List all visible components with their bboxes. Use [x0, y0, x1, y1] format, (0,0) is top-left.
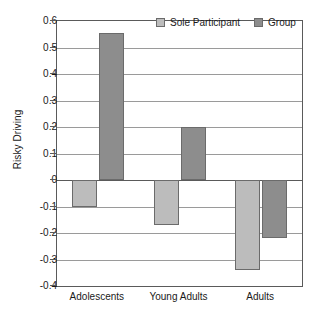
gridline — [57, 48, 302, 49]
gridline — [57, 127, 302, 128]
y-tick-mark — [50, 100, 56, 101]
legend-swatch-sole-participant — [156, 18, 165, 27]
bar — [72, 180, 97, 207]
bar — [235, 180, 260, 270]
y-tick-mark — [50, 73, 56, 74]
y-tick-mark — [50, 206, 56, 207]
plot-inner — [57, 21, 302, 286]
gridline — [57, 154, 302, 155]
y-tick-mark — [50, 126, 56, 127]
legend-swatch-group — [254, 18, 263, 27]
legend-item-sole-participant: Sole Participant — [156, 17, 240, 28]
y-tick-mark — [50, 47, 56, 48]
x-tick-label: Young Adults — [149, 291, 207, 302]
plot-area — [56, 20, 303, 287]
bar — [181, 127, 206, 180]
bar — [99, 33, 124, 180]
legend-label-sole-participant: Sole Participant — [170, 17, 240, 28]
bar — [262, 180, 287, 238]
y-tick-mark — [50, 285, 56, 286]
gridline — [57, 260, 302, 261]
chart-legend: Sole Participant Group — [152, 13, 300, 31]
legend-label-group: Group — [268, 17, 296, 28]
y-tick-mark — [50, 20, 56, 21]
gridline — [57, 101, 302, 102]
y-tick-mark — [50, 179, 56, 180]
y-tick-mark — [50, 232, 56, 233]
x-tick-label: Adolescents — [70, 291, 124, 302]
y-tick-mark — [50, 259, 56, 260]
legend-item-group: Group — [254, 17, 296, 28]
bar — [154, 180, 179, 225]
risky-driving-bar-chart: Risky Driving 0.60.50.40.30.20.10-0.1-0.… — [0, 0, 320, 314]
gridline — [57, 74, 302, 75]
x-tick-label: Adults — [246, 291, 274, 302]
y-tick-mark — [50, 153, 56, 154]
